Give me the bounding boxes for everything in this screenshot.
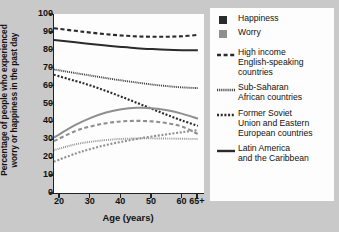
series-line <box>54 28 198 36</box>
legend-line-swatch <box>216 146 236 156</box>
legend-label: Latin Americaand the Caribbean <box>238 144 309 164</box>
series-line <box>54 130 198 162</box>
legend-style-swatch <box>216 109 238 121</box>
legend-item-happiness[interactable]: Happiness <box>216 14 330 25</box>
legend-label-line: African countries <box>238 93 302 103</box>
y-axis-title: Percentage of people who experienced wor… <box>0 0 26 200</box>
square-icon <box>219 30 227 38</box>
legend-color-swatch <box>216 14 238 25</box>
legend-label-line: and the Caribbean <box>238 154 309 164</box>
x-tick-mark <box>58 194 59 198</box>
legend-line-swatch <box>216 85 236 95</box>
x-tick-mark <box>89 194 90 198</box>
y-axis-title-line-2: worry or happiness in the past day <box>10 0 20 200</box>
chart-figure: Percentage of people who experienced wor… <box>0 0 339 232</box>
legend-style-swatch <box>216 48 238 60</box>
legend-measure-group: HappinessWorry <box>216 14 330 39</box>
legend-label: Former SovietUnion and EasternEuropean c… <box>238 109 313 138</box>
x-axis-title: Age (years) <box>53 212 203 223</box>
legend-item-region-1[interactable]: Sub-SaharanAfrican countries <box>216 83 330 103</box>
legend-style-swatch <box>216 144 238 156</box>
legend-item-region-2[interactable]: Former SovietUnion and EasternEuropean c… <box>216 109 330 138</box>
series-line <box>54 75 198 126</box>
legend-label-line: countries <box>238 68 303 78</box>
legend-line-swatch <box>216 110 236 120</box>
legend-item-region-0[interactable]: High incomeEnglish-speakingcountries <box>216 48 330 77</box>
legend-label: Worry <box>238 28 261 38</box>
legend: HappinessWorry High incomeEnglish-speaki… <box>210 8 334 201</box>
y-axis-tick-labels: 0102030405060708090100 <box>26 0 53 200</box>
legend-label: High incomeEnglish-speakingcountries <box>238 48 303 77</box>
series-line <box>54 69 198 88</box>
legend-item-region-3[interactable]: Latin Americaand the Caribbean <box>216 144 330 164</box>
legend-label: Sub-SaharanAfrican countries <box>238 83 302 103</box>
series-line <box>54 40 198 50</box>
x-tick-mark <box>120 194 121 198</box>
legend-label-line: European countries <box>238 129 313 139</box>
square-icon <box>219 16 227 24</box>
legend-label: Happiness <box>238 14 279 24</box>
legend-line-swatch <box>216 50 236 60</box>
legend-item-worry[interactable]: Worry <box>216 28 330 39</box>
x-tick-mark <box>181 194 182 198</box>
x-tick-mark <box>196 194 197 198</box>
series-lines <box>54 14 204 193</box>
legend-style-swatch <box>216 83 238 95</box>
plot-area <box>53 14 204 194</box>
legend-color-swatch <box>216 28 238 39</box>
legend-region-group: High incomeEnglish-speakingcountriesSub-… <box>216 48 330 164</box>
x-tick-mark <box>150 194 151 198</box>
